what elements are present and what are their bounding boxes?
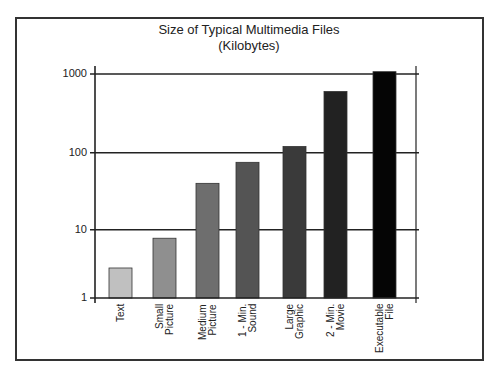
bar-medium-picture: [196, 183, 219, 298]
y-tick-label: 1000: [47, 67, 87, 79]
bars: [109, 72, 396, 298]
x-tick-label: 2 - Min. Movie: [326, 304, 346, 337]
y-tick-label: 10: [47, 223, 87, 235]
bar-1-min-sound: [236, 162, 259, 298]
x-tick-label: Medium Picture: [198, 304, 218, 340]
x-tick-label: Small Picture: [155, 304, 175, 335]
bar-2-min-movie: [324, 91, 347, 298]
bar-text: [109, 268, 132, 298]
y-tick-label: 1: [47, 291, 87, 303]
bar-executable-file: [373, 72, 396, 298]
x-tick-label: Executable File: [375, 304, 395, 353]
x-tick-label: 1 - Min. Sound: [238, 304, 258, 337]
bar-small-picture: [153, 238, 176, 298]
x-tick-label: Text: [116, 304, 126, 322]
bar-large-graphic: [283, 146, 306, 298]
x-tick-label: Large Graphic: [285, 304, 305, 339]
y-tick-label: 100: [47, 146, 87, 158]
